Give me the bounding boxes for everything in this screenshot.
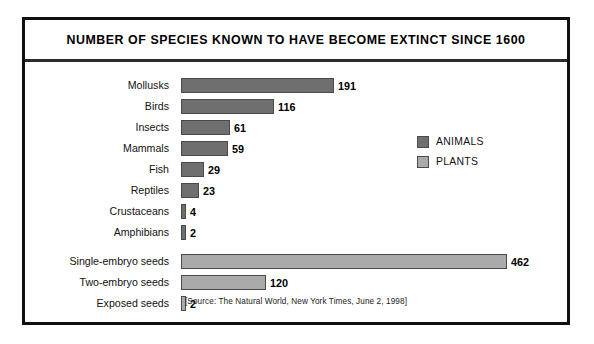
bar-category-label: Crustaceans <box>110 201 169 222</box>
bar-value-label: 120 <box>266 275 288 290</box>
bar-plants <box>181 275 266 290</box>
bar-row: Crustaceans4 <box>25 201 567 222</box>
bar-row: Single-embryo seeds462 <box>25 251 567 272</box>
bar-row: Mollusks191 <box>25 75 567 96</box>
bar-and-value: 462 <box>181 254 529 269</box>
bar-animals <box>181 141 228 156</box>
bar-and-value: 4 <box>181 204 196 219</box>
bar-row: Reptiles23 <box>25 180 567 201</box>
bar-value-label: 2 <box>186 225 196 240</box>
bar-value-label: 23 <box>199 183 215 198</box>
bar-animals <box>181 99 274 114</box>
bar-category-label: Mollusks <box>128 75 169 96</box>
bar-value-label: 29 <box>204 162 220 177</box>
bar-animals <box>181 183 199 198</box>
bar-animals <box>181 78 334 93</box>
bar-category-label: Insects <box>135 117 169 138</box>
bar-and-value: 61 <box>181 120 246 135</box>
legend-label-plants: PLANTS <box>436 156 478 167</box>
bar-row: Mammals59 <box>25 138 567 159</box>
chart-legend: ANIMALS PLANTS <box>417 133 484 173</box>
legend-item-animals: ANIMALS <box>417 133 484 150</box>
bar-category-label: Mammals <box>123 138 169 159</box>
chart-source-note: [Source: The Natural World, New York Tim… <box>25 297 567 306</box>
bar-value-label: 61 <box>230 120 246 135</box>
bar-value-label: 462 <box>507 254 529 269</box>
bar-category-label: Amphibians <box>114 222 169 243</box>
legend-swatch-animals-icon <box>417 136 429 148</box>
bar-and-value: 191 <box>181 78 356 93</box>
bar-and-value: 2 <box>181 225 196 240</box>
bar-value-label: 116 <box>274 99 295 114</box>
bar-plants <box>181 254 507 269</box>
legend-swatch-plants-icon <box>417 156 429 168</box>
bar-and-value: 59 <box>181 141 244 156</box>
bar-category-label: Single-embryo seeds <box>69 251 169 272</box>
bar-value-label: 191 <box>334 78 356 93</box>
bar-value-label: 4 <box>186 204 196 219</box>
bar-and-value: 23 <box>181 183 215 198</box>
bar-category-label: Birds <box>145 96 169 117</box>
legend-label-animals: ANIMALS <box>436 136 484 147</box>
chart-frame: NUMBER OF SPECIES KNOWN TO HAVE BECOME E… <box>22 17 570 325</box>
bar-row: Fish29 <box>25 159 567 180</box>
legend-item-plants: PLANTS <box>417 153 484 170</box>
title-band: NUMBER OF SPECIES KNOWN TO HAVE BECOME E… <box>25 20 567 62</box>
bar-category-label: Reptiles <box>131 180 169 201</box>
bar-row: Birds116 <box>25 96 567 117</box>
bar-row: Insects61 <box>25 117 567 138</box>
bar-animals <box>181 162 204 177</box>
bar-category-label: Two-embryo seeds <box>80 272 170 293</box>
bar-animals <box>181 120 230 135</box>
bar-category-label: Fish <box>149 159 169 180</box>
bar-and-value: 120 <box>181 275 288 290</box>
bar-and-value: 116 <box>181 99 295 114</box>
bar-value-label: 59 <box>228 141 244 156</box>
bar-row: Amphibians2 <box>25 222 567 243</box>
chart-title: NUMBER OF SPECIES KNOWN TO HAVE BECOME E… <box>66 33 525 47</box>
bar-row: Two-embryo seeds120 <box>25 272 567 293</box>
chart-plot-area: Mollusks191Birds116Insects61Mammals59Fis… <box>25 65 567 322</box>
bar-and-value: 29 <box>181 162 220 177</box>
